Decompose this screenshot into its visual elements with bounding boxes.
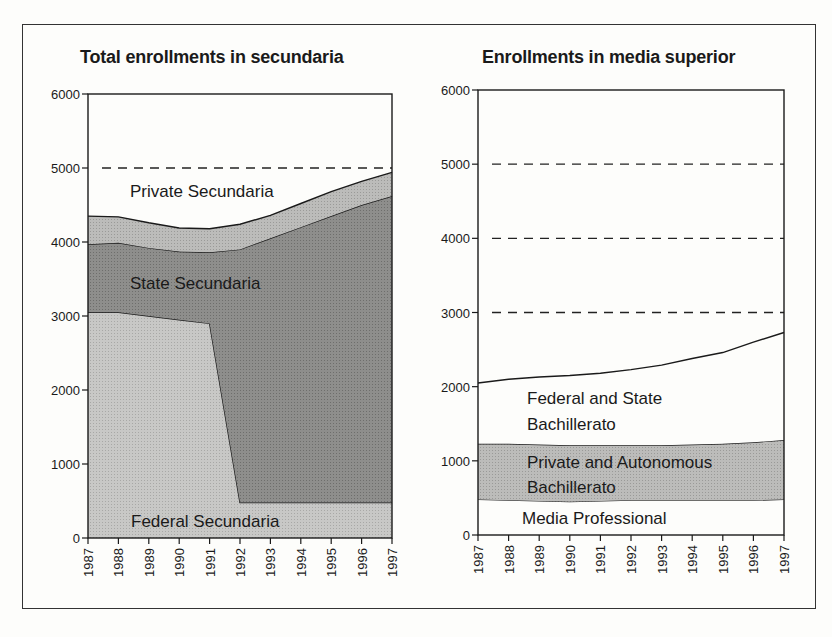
y-tick-label: 0 <box>73 531 80 546</box>
x-tick-label: 1990 <box>172 548 187 577</box>
x-tick-label: 1987 <box>81 548 96 577</box>
x-tick-label: 1996 <box>746 545 761 574</box>
label-federal-state-bachillerato-1: Federal and State <box>527 389 662 408</box>
x-tick-label: 1996 <box>355 548 370 577</box>
label-private-secundaria: Private Secundaria <box>130 182 274 201</box>
x-tick-label: 1992 <box>624 545 639 574</box>
y-tick-label: 6000 <box>441 83 470 98</box>
x-tick-label: 1995 <box>716 545 731 574</box>
x-tick-label: 1995 <box>324 548 339 577</box>
y-tick-label: 0 <box>463 528 470 543</box>
y-tick-label: 4000 <box>51 235 80 250</box>
y-tick-label: 5000 <box>51 161 80 176</box>
right-chart-media-superior: 0100020003000400050006000198719881989199… <box>441 83 792 574</box>
label-private-autonomous-2: Bachillerato <box>527 478 616 497</box>
label-private-autonomous-1: Private and Autonomous <box>527 453 712 472</box>
y-tick-label: 1000 <box>51 457 80 472</box>
x-tick-label: 1989 <box>142 548 157 577</box>
x-tick-label: 1988 <box>111 548 126 577</box>
label-federal-secundaria: Federal Secundaria <box>131 512 280 531</box>
y-tick-label: 4000 <box>441 231 470 246</box>
x-tick-label: 1990 <box>563 545 578 574</box>
x-tick-label: 1988 <box>502 545 517 574</box>
x-tick-label: 1991 <box>593 545 608 574</box>
left-chart-secundaria: 0100020003000400050006000198719881989199… <box>51 87 400 577</box>
x-tick-label: 1994 <box>294 548 309 577</box>
y-tick-label: 3000 <box>441 306 470 321</box>
x-tick-label: 1994 <box>685 545 700 574</box>
x-tick-label: 1997 <box>777 545 792 574</box>
x-tick-label: 1991 <box>203 548 218 577</box>
x-tick-label: 1989 <box>532 545 547 574</box>
x-tick-label: 1992 <box>233 548 248 577</box>
y-tick-label: 5000 <box>441 157 470 172</box>
charts-canvas: 0100020003000400050006000198719881989199… <box>0 0 832 637</box>
x-tick-label: 1997 <box>385 548 400 577</box>
label-federal-state-bachillerato-2: Bachillerato <box>527 415 616 434</box>
label-media-professional: Media Professional <box>522 509 667 528</box>
x-tick-label: 1993 <box>655 545 670 574</box>
y-tick-label: 2000 <box>51 383 80 398</box>
y-tick-label: 3000 <box>51 309 80 324</box>
y-tick-label: 6000 <box>51 87 80 102</box>
x-tick-label: 1993 <box>263 548 278 577</box>
y-tick-label: 2000 <box>441 380 470 395</box>
y-tick-label: 1000 <box>441 454 470 469</box>
x-tick-label: 1987 <box>471 545 486 574</box>
label-state-secundaria: State Secundaria <box>130 274 261 293</box>
